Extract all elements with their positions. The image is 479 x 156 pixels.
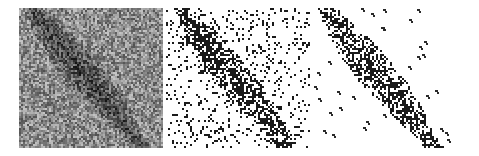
panel-filtered-image (312, 8, 456, 148)
panel-noisy-image (19, 8, 163, 148)
panel-thresholded-image (166, 8, 310, 148)
